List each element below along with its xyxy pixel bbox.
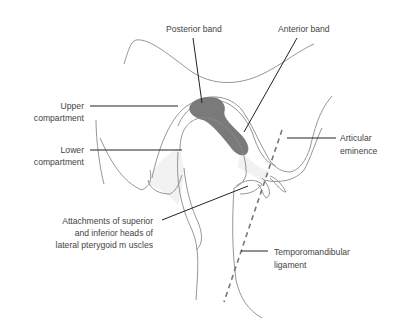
label-posterior-band: Posterior band — [166, 24, 222, 34]
label-tm-ligament: Temporomandibular — [274, 247, 350, 257]
label-anterior-band: Anterior band — [278, 24, 330, 34]
label-articular-eminence: Articular — [340, 133, 372, 143]
retrodiscal-tissue — [150, 148, 184, 205]
skull-outline-upper — [124, 40, 314, 83]
label-lower-compartment: Lower — [61, 145, 85, 155]
articular-disc — [190, 97, 248, 155]
leader-posterior-band — [193, 38, 202, 103]
label-tm-ligament-2: ligament — [274, 260, 307, 270]
label-attachments: Attachments of superior — [62, 216, 153, 226]
posterior-bone-curve — [100, 138, 151, 190]
label-articular-eminence-2: eminence — [340, 146, 377, 156]
label-attachments-2: and inferior heads of — [75, 228, 154, 238]
label-attachments-3: lateral pterygoid m uscles — [56, 240, 153, 250]
label-upper-compartment-2: compartment — [34, 113, 85, 123]
leader-anterior-band — [244, 38, 297, 132]
condyle-neck-inner — [184, 168, 202, 250]
label-lower-compartment-2: compartment — [34, 157, 85, 167]
ramus-anterior — [233, 188, 262, 318]
tmj-diagram: Posterior band Anterior band Upper compa… — [0, 0, 404, 336]
far-left-outline — [96, 120, 104, 184]
label-upper-compartment: Upper — [61, 101, 85, 111]
